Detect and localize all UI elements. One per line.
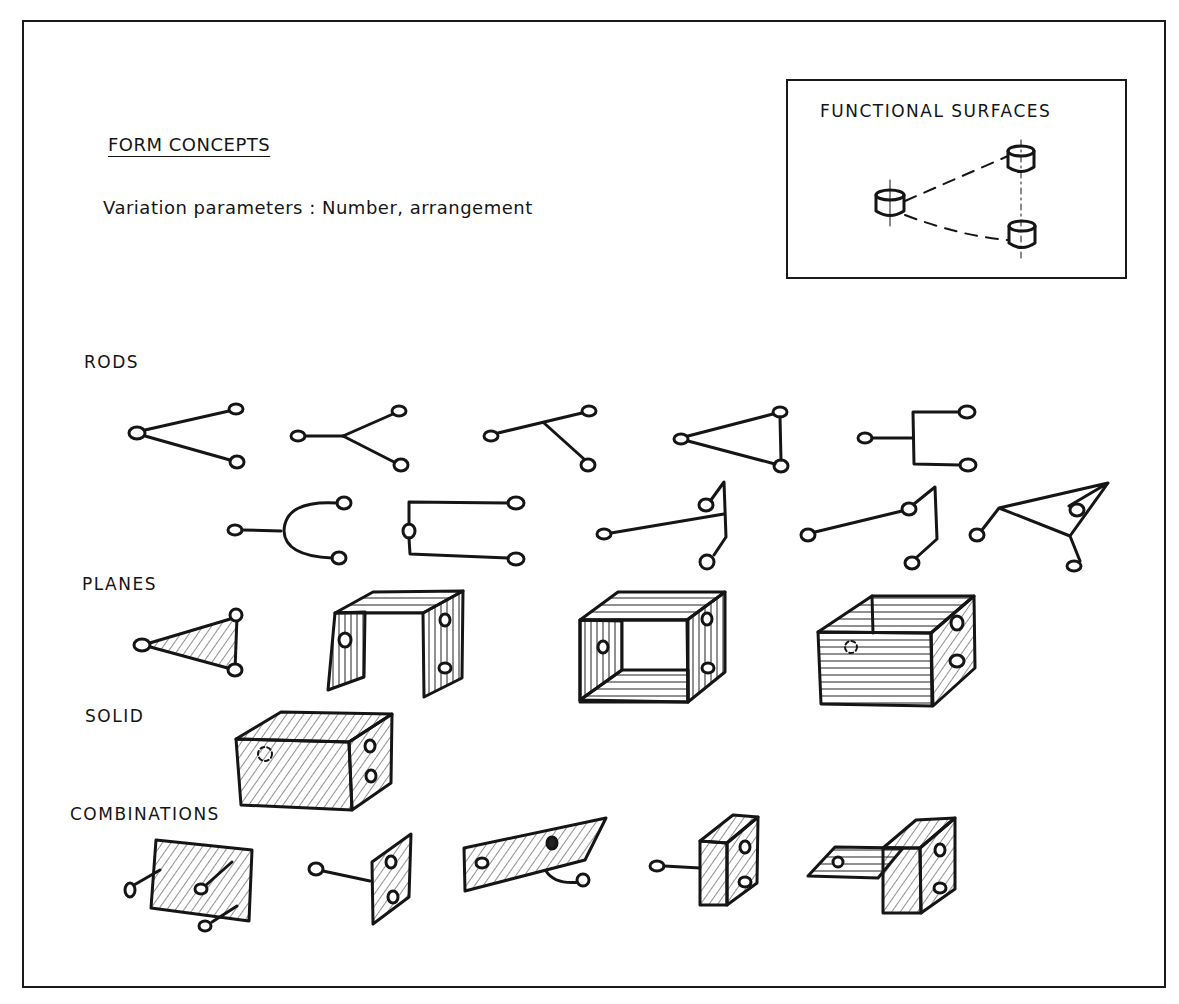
rod-variant-1 <box>129 404 244 468</box>
plane-variant-closed-box <box>818 596 975 706</box>
combination-tilted-plane <box>464 818 606 891</box>
rod-variant-2 <box>291 406 408 471</box>
rod-variant-6 <box>228 497 351 564</box>
sketch-canvas <box>0 0 1179 1004</box>
combination-rod-block <box>650 815 758 905</box>
rod-variant-10 <box>970 483 1108 571</box>
rod-variant-7 <box>403 497 524 565</box>
rod-variant-9 <box>801 487 937 569</box>
solid-block <box>236 712 392 810</box>
rods-row-2 <box>228 482 1108 571</box>
combinations-row <box>125 815 955 931</box>
rod-variant-4 <box>674 407 788 472</box>
planes-row <box>134 591 975 706</box>
functional-surfaces-diagram <box>876 140 1035 262</box>
combination-plate-block <box>808 818 955 913</box>
rods-row-1 <box>129 404 976 472</box>
plane-variant-u-channel <box>328 591 463 697</box>
combination-plane-rods <box>125 840 252 931</box>
rod-variant-8 <box>597 482 726 569</box>
rod-variant-5 <box>858 406 976 471</box>
rod-variant-3 <box>484 406 596 471</box>
plane-variant-open-box <box>580 592 725 702</box>
combination-rod-plate <box>309 834 411 924</box>
plane-variant-triangle <box>134 609 242 676</box>
